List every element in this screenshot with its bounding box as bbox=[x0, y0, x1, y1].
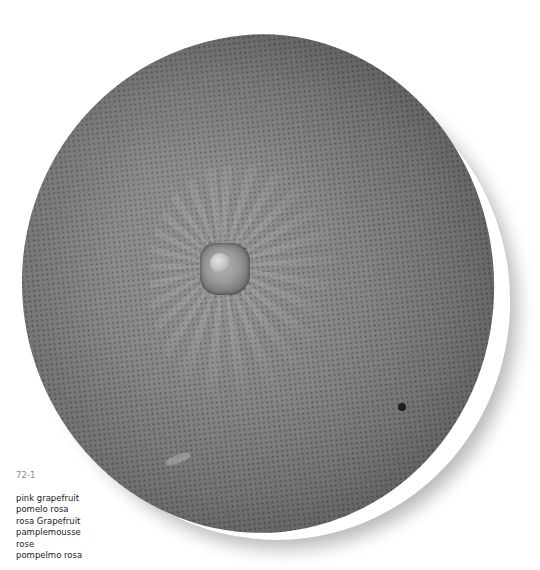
caption-name: pink grapefruit bbox=[16, 493, 82, 505]
caption-name: pompelmo rosa bbox=[16, 550, 82, 562]
stem-nub bbox=[210, 253, 230, 273]
caption-id: 72-1 bbox=[16, 470, 82, 482]
caption-name: rose bbox=[16, 539, 82, 551]
caption-name: rosa Grapefruit bbox=[16, 516, 82, 528]
caption: 72-1 pink grapefruit pomelo rosa rosa Gr… bbox=[16, 470, 82, 562]
peel-blemish bbox=[398, 403, 406, 411]
caption-name: pamplemousse bbox=[16, 527, 82, 539]
caption-name-list: pink grapefruit pomelo rosa rosa Grapefr… bbox=[16, 493, 82, 562]
caption-name: pomelo rosa bbox=[16, 504, 82, 516]
